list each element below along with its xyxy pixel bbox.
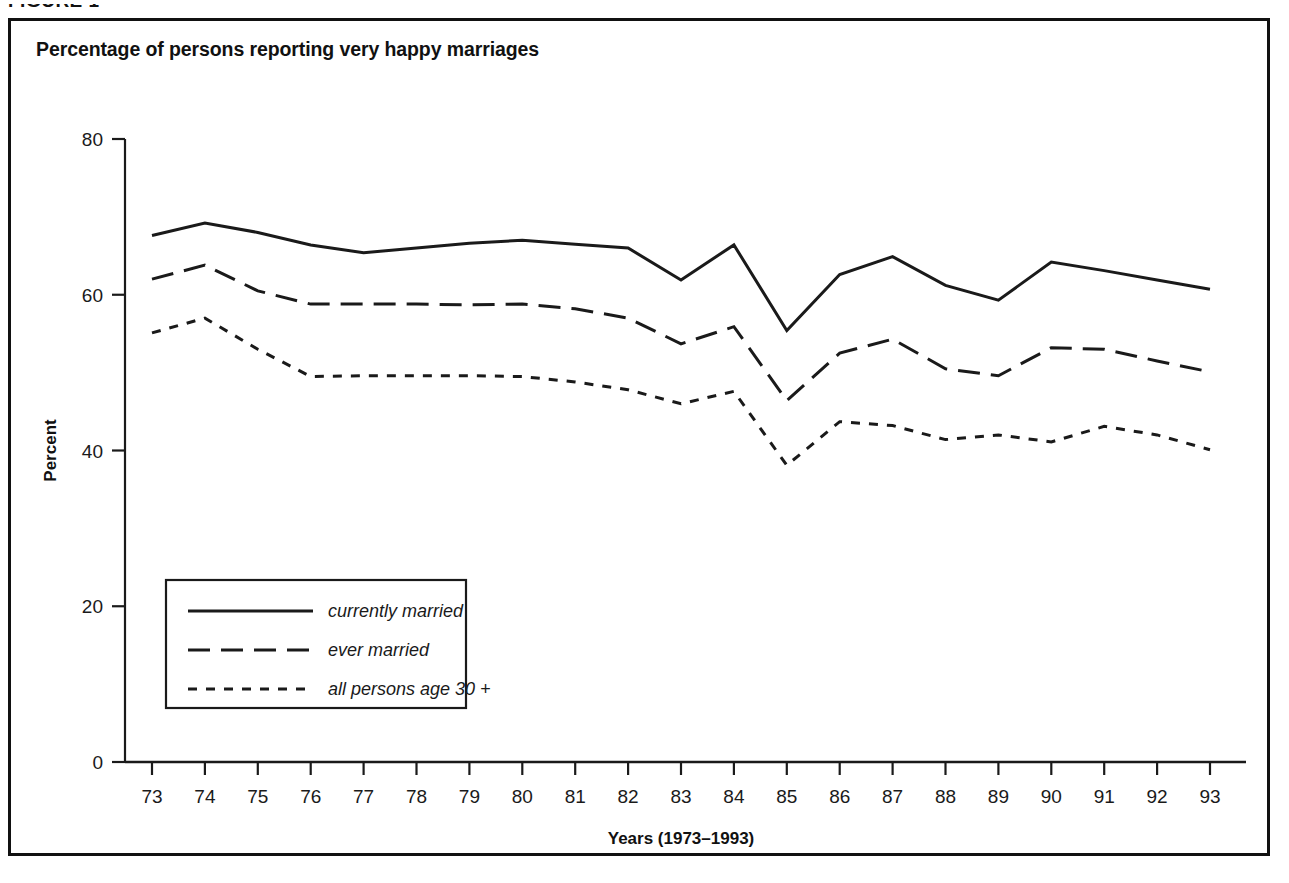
series-line-1	[152, 265, 1210, 401]
legend-label-1: ever married	[328, 640, 430, 660]
x-axis-tick-label: 86	[829, 786, 850, 807]
series-line-0	[152, 223, 1210, 330]
x-axis-tick-label: 87	[882, 786, 903, 807]
x-axis-tick-label: 75	[247, 786, 268, 807]
x-axis-tick-label: 81	[565, 786, 586, 807]
x-axis-tick-label: 83	[670, 786, 691, 807]
x-axis-tick-label: 82	[618, 786, 639, 807]
x-axis-tick-label: 79	[459, 786, 480, 807]
x-axis-tick-label: 93	[1199, 786, 1220, 807]
series-line-2	[152, 318, 1210, 465]
y-axis-tick-label: 60	[82, 285, 103, 306]
legend-label-0: currently married	[328, 601, 464, 621]
x-axis-tick-label: 88	[935, 786, 956, 807]
x-axis-tick-label: 89	[988, 786, 1009, 807]
x-axis-tick-label: 80	[512, 786, 533, 807]
chart-plot-area: 020406080Percent737475767778798081828384…	[0, 0, 1289, 883]
x-axis-tick-label: 73	[141, 786, 162, 807]
x-axis-title: Years (1973–1993)	[608, 829, 755, 848]
y-axis-tick-label: 40	[82, 441, 103, 462]
y-axis-title: Percent	[41, 419, 60, 482]
x-axis-tick-label: 92	[1147, 786, 1168, 807]
x-axis-tick-label: 84	[723, 786, 745, 807]
y-axis-tick-label: 80	[82, 129, 103, 150]
x-axis-tick-label: 90	[1041, 786, 1062, 807]
x-axis-tick-label: 91	[1094, 786, 1115, 807]
x-axis-tick-label: 74	[194, 786, 216, 807]
legend-label-2: all persons age 30 +	[328, 679, 491, 699]
x-axis-tick-label: 85	[776, 786, 797, 807]
y-axis-tick-label: 20	[82, 596, 103, 617]
x-axis-tick-label: 76	[300, 786, 321, 807]
y-axis-tick-label: 0	[92, 752, 103, 773]
x-axis-tick-label: 77	[353, 786, 374, 807]
x-axis-tick-label: 78	[406, 786, 427, 807]
